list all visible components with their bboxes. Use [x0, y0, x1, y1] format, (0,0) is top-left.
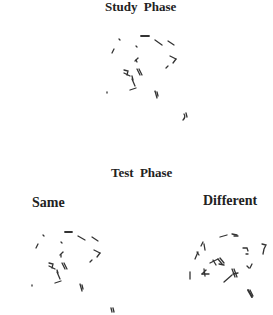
study-stimulus-display [100, 28, 200, 128]
study-fragments-graphic [100, 28, 200, 128]
different-fragments-graphic [180, 224, 273, 315]
different-stimulus-display [180, 224, 273, 315]
different-condition-label: Different [203, 193, 257, 209]
test-phase-title: Test Phase [111, 165, 172, 181]
same-stimulus-display [25, 224, 125, 315]
same-fragments-graphic [25, 224, 125, 315]
study-phase-title: Study Phase [105, 0, 176, 15]
same-condition-label: Same [32, 195, 65, 211]
